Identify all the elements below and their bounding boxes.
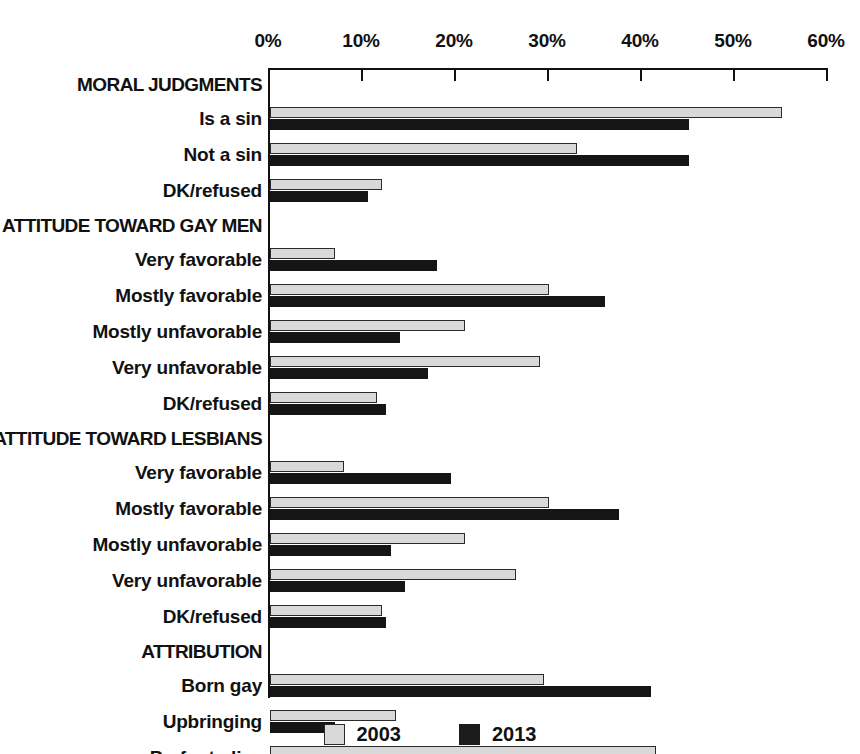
- bar-2013: [270, 260, 437, 271]
- bar-2013: [270, 191, 368, 202]
- group-header-label: ATTITUDE TOWARD GAY MEN: [2, 215, 262, 237]
- chart-row: DK/refused: [0, 173, 860, 209]
- chart-row: Is a sin: [0, 101, 860, 137]
- legend-item: 2013: [459, 723, 537, 746]
- bar-2003: [270, 392, 377, 403]
- bar-2003: [270, 320, 465, 331]
- black-swatch: [459, 724, 480, 745]
- bar-2003: [270, 746, 656, 754]
- x-tick-label: 50%: [714, 30, 751, 52]
- bar-2003: [270, 674, 544, 685]
- bar-2003: [270, 569, 516, 580]
- bar-2003: [270, 284, 549, 295]
- x-axis-tick: [547, 68, 549, 81]
- bar-2013: [270, 617, 386, 628]
- bar-2003: [270, 605, 382, 616]
- group-header-row: ATTITUDE TOWARD LESBIANS: [0, 422, 860, 455]
- group-header-row: ATTITUDE TOWARD GAY MEN: [0, 209, 860, 242]
- x-tick-label: 10%: [342, 30, 379, 52]
- bar-2013: [270, 581, 405, 592]
- bar-2003: [270, 143, 577, 154]
- chart-row: Mostly unfavorable: [0, 314, 860, 350]
- bar-2003: [270, 497, 549, 508]
- bar-2013: [270, 686, 651, 697]
- legend-label: 2003: [357, 723, 402, 746]
- x-tick-label: 0%: [254, 30, 281, 52]
- x-tick-label: 40%: [621, 30, 658, 52]
- bar-2003: [270, 356, 540, 367]
- bar-2003: [270, 533, 465, 544]
- row-label: Mostly unfavorable: [92, 321, 262, 343]
- legend-label: 2013: [492, 723, 537, 746]
- row-label: DK/refused: [163, 606, 262, 628]
- bar-2003: [270, 461, 344, 472]
- row-label: DK/refused: [163, 393, 262, 415]
- x-axis-tick-labels: 0%10%20%30%40%50%60%: [0, 30, 860, 54]
- chart-rows: MORAL JUDGMENTSIs a sinNot a sinDK/refus…: [0, 68, 860, 754]
- bar-2013: [270, 119, 689, 130]
- row-label: Very unfavorable: [112, 570, 262, 592]
- chart-row: Very unfavorable: [0, 350, 860, 386]
- bar-chart: 0%10%20%30%40%50%60% MORAL JUDGMENTSIs a…: [0, 0, 860, 754]
- bar-2003: [270, 248, 335, 259]
- group-header-row: MORAL JUDGMENTS: [0, 68, 860, 101]
- bar-2013: [270, 296, 605, 307]
- x-tick-label: 30%: [528, 30, 565, 52]
- bar-2013: [270, 404, 386, 415]
- row-label: Mostly favorable: [115, 285, 262, 307]
- group-header-label: ATTRIBUTION: [141, 641, 262, 663]
- chart-row: DK/refused: [0, 599, 860, 635]
- chart-row: Mostly favorable: [0, 491, 860, 527]
- row-label: Very unfavorable: [112, 357, 262, 379]
- light-gray-swatch: [324, 724, 345, 745]
- x-axis-tick: [361, 68, 363, 81]
- row-label: Prefer to live: [150, 747, 262, 754]
- bar-2013: [270, 545, 391, 556]
- chart-row: Mostly favorable: [0, 278, 860, 314]
- row-label: Very favorable: [135, 462, 262, 484]
- bar-2013: [270, 332, 400, 343]
- bar-2003: [270, 179, 382, 190]
- row-label: Is a sin: [199, 108, 262, 130]
- bar-2003: [270, 710, 396, 721]
- group-header-label: MORAL JUDGMENTS: [77, 74, 262, 96]
- bar-2013: [270, 155, 689, 166]
- chart-row: Mostly unfavorable: [0, 527, 860, 563]
- x-tick-label: 20%: [435, 30, 472, 52]
- group-header-label: ATTITUDE TOWARD LESBIANS: [0, 428, 262, 450]
- bar-2003: [270, 107, 782, 118]
- x-axis-tick: [640, 68, 642, 81]
- chart-row: DK/refused: [0, 386, 860, 422]
- row-label: Born gay: [181, 675, 262, 697]
- bar-2013: [270, 473, 451, 484]
- group-header-row: ATTRIBUTION: [0, 635, 860, 668]
- x-axis-tick: [454, 68, 456, 81]
- x-axis-tick: [826, 68, 828, 81]
- chart-row: Very favorable: [0, 455, 860, 491]
- chart-row: Very unfavorable: [0, 563, 860, 599]
- x-tick-label: 60%: [807, 30, 844, 52]
- row-label: Very favorable: [135, 249, 262, 271]
- chart-row: Born gay: [0, 668, 860, 704]
- row-label: Mostly favorable: [115, 498, 262, 520]
- legend-item: 2003: [324, 723, 402, 746]
- chart-row: Very favorable: [0, 242, 860, 278]
- chart-row: Not a sin: [0, 137, 860, 173]
- chart-legend: 20032013: [0, 723, 860, 746]
- bar-2013: [270, 509, 619, 520]
- row-label: Not a sin: [184, 144, 262, 166]
- row-label: Mostly unfavorable: [92, 534, 262, 556]
- bar-2013: [270, 368, 428, 379]
- x-axis-tick: [268, 68, 270, 81]
- row-label: DK/refused: [163, 180, 262, 202]
- x-axis-tick: [733, 68, 735, 81]
